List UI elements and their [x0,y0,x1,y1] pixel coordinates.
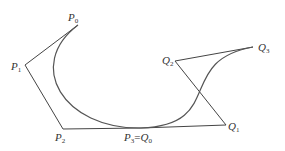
label-q3: Q3 [258,42,269,55]
q-control-polygon [141,47,253,128]
label-q1: Q1 [228,121,239,134]
bezier-diagram [0,0,285,151]
label-p3-equals-q0: P3=Q0 [124,132,152,145]
q-bezier-curve [141,47,253,128]
label-p2: P2 [55,132,65,145]
label-p0: P0 [68,12,78,25]
label-p1: P1 [11,61,21,74]
p-bezier-curve [53,25,141,128]
label-q2: Q2 [162,55,173,68]
